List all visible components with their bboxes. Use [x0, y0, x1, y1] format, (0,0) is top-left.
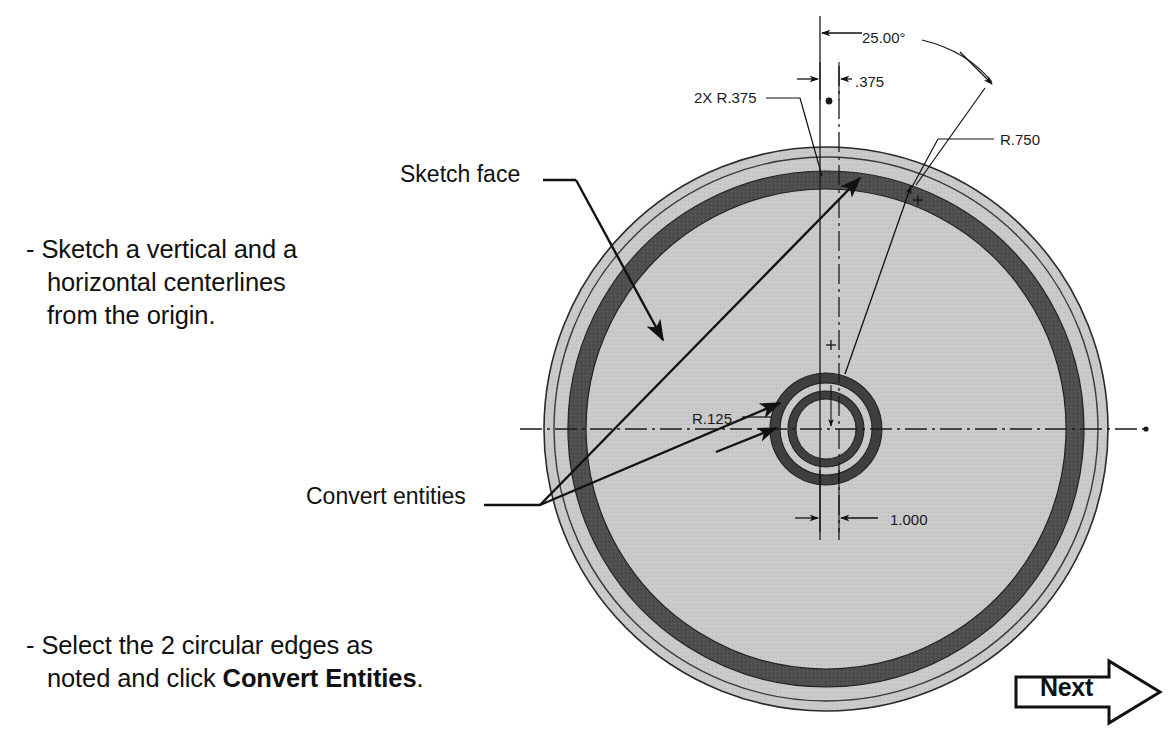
drawing-stage: - Sketch a vertical and a horizontal cen…: [0, 0, 1172, 753]
instruction-line-1: - Select the 2 circular edges as: [26, 631, 373, 659]
dimension-label-r750: R.750: [1000, 131, 1040, 148]
dimension-label-width: 1.000: [890, 511, 928, 528]
instruction-sketch-centerlines: - Sketch a vertical and a horizontal cen…: [26, 233, 297, 332]
instruction-convert-entities: - Select the 2 circular edges as noted a…: [26, 629, 424, 695]
callout-label-convert-entities: Convert entities: [306, 483, 466, 510]
dimension-label-offset: .375: [855, 73, 884, 90]
origin-point: [826, 98, 833, 105]
angle-ray: [916, 88, 985, 185]
instruction-line-3: from the origin.: [26, 301, 215, 329]
dimension-label-angle: 25.00°: [862, 29, 906, 46]
dimension-label-r125: R.125: [692, 410, 732, 427]
convert-entities-command: Convert Entities: [223, 664, 417, 692]
instruction-line-2: horizontal centerlines: [26, 268, 286, 296]
instruction-line-2-suffix: .: [417, 664, 424, 692]
callout-label-sketch-face: Sketch face: [400, 161, 520, 188]
instruction-line-2-prefix: noted and click: [26, 664, 223, 692]
dimension-label-fillet: 2X R.375: [694, 89, 757, 106]
centerline-endpoint-dot: [1143, 426, 1148, 431]
angle-dim-arc: [922, 40, 992, 82]
next-button-label[interactable]: Next: [1040, 673, 1093, 702]
angle-dim-arrow-right: [960, 52, 992, 84]
instruction-line-1: - Sketch a vertical and a: [26, 235, 297, 263]
